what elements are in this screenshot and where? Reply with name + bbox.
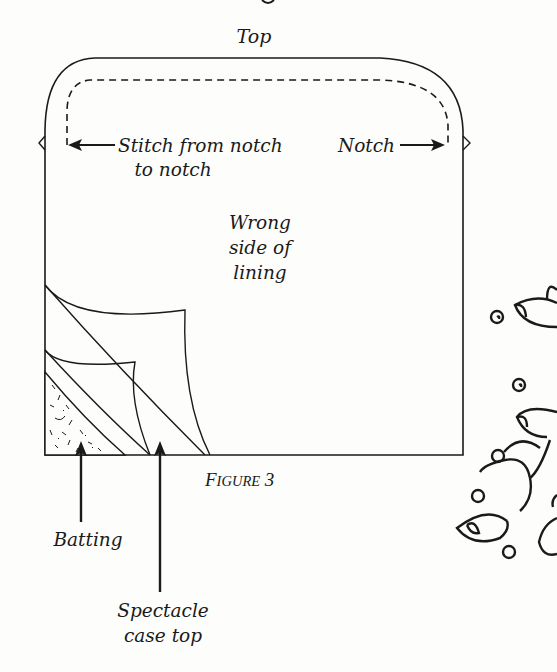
notch-label: Notch — [337, 135, 395, 156]
figure-3-diagram: Top Stitch from notch to notch Notch Wro… — [0, 0, 557, 672]
stitch-label-line1: Stitch from notch — [118, 135, 283, 156]
stitch-label-line2: to notch — [134, 159, 211, 180]
left-notch-icon — [39, 136, 45, 150]
notch-arrow — [400, 139, 445, 151]
wrong-side-label-line3: lining — [233, 262, 287, 283]
figure-caption: FIGURE 3 — [204, 469, 274, 490]
wrong-side-label-line2: side of — [229, 237, 294, 258]
floral-decoration — [457, 287, 557, 558]
top-label: Top — [237, 25, 272, 47]
wrong-side-label-line1: Wrong — [229, 212, 291, 233]
spectacle-label-line1: Spectacle — [117, 600, 209, 621]
batting-arrow — [75, 441, 87, 522]
batting-label: Batting — [52, 529, 122, 550]
spectacle-label-line2: case top — [124, 625, 202, 646]
batting-layer — [45, 372, 125, 455]
cropped-text-fragment — [262, 0, 274, 3]
right-notch-icon — [463, 136, 470, 150]
spectacle-arrow — [154, 441, 166, 592]
stitch-arrow — [68, 139, 115, 151]
